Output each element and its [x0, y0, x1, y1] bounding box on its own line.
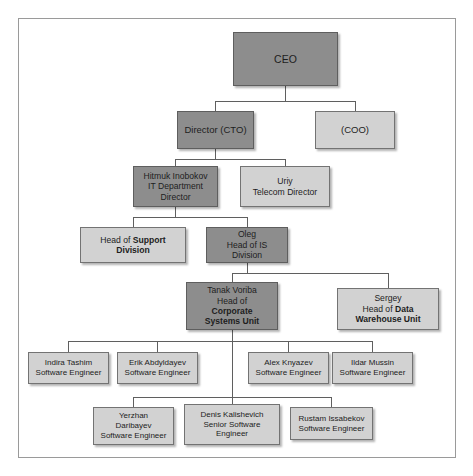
node-engineer-denis-kalishevich-text: Denis KalishevichSenior SoftwareEngineer: [187, 410, 277, 439]
node-engineer-ildar-mussin-text: Ildar MussinSoftware Engineer: [335, 358, 410, 378]
node-engineer-rustam-issabekov-text: Rustam IssabekovSoftware Engineer: [293, 414, 370, 434]
node-head-of-support-division[interactable]: Head of Support Division: [80, 227, 186, 263]
node-engineer-yerzhan-daribayev[interactable]: YerzhanDaribayevSoftware Engineer: [93, 407, 174, 445]
node-ceo-label: CEO: [236, 53, 335, 66]
node-engineer-alex-knyazev[interactable]: Alex KnyazevSoftware Engineer: [248, 352, 329, 384]
node-coo-label: (COO): [318, 124, 392, 136]
node-corporate-systems-unit[interactable]: Tanak VoribaHead ofCorporateSystems Unit: [186, 282, 278, 330]
node-it-department-director[interactable]: Hitmuk InobokovIT DepartmentDirector: [133, 166, 218, 207]
node-director-cto-label: Director (CTO): [180, 124, 251, 136]
node-engineer-alex-knyazev-text: Alex KnyazevSoftware Engineer: [251, 358, 326, 378]
node-engineer-indira-tashim-text: Indira TashimSoftware Engineer: [31, 358, 106, 378]
node-head-of-is-division-text: OlegHead of ISDivision: [209, 229, 285, 260]
node-engineer-erik-abdyldayev[interactable]: Erik AbdyldayevSoftware Engineer: [117, 352, 198, 384]
node-corporate-systems-unit-text: Tanak VoribaHead ofCorporateSystems Unit: [189, 285, 275, 327]
node-engineer-rustam-issabekov[interactable]: Rustam IssabekovSoftware Engineer: [290, 407, 373, 440]
node-engineer-indira-tashim[interactable]: Indira TashimSoftware Engineer: [28, 352, 109, 384]
node-coo[interactable]: (COO): [315, 111, 395, 149]
node-it-department-director-text: Hitmuk InobokovIT DepartmentDirector: [136, 171, 215, 202]
node-director-cto[interactable]: Director (CTO): [177, 111, 254, 149]
node-head-of-is-division[interactable]: OlegHead of ISDivision: [206, 227, 288, 263]
node-engineer-erik-abdyldayev-text: Erik AbdyldayevSoftware Engineer: [120, 358, 195, 378]
node-data-warehouse-unit[interactable]: SergeyHead of DataWarehouse Unit: [337, 288, 439, 330]
node-ceo[interactable]: CEO: [233, 32, 338, 86]
node-engineer-denis-kalishevich[interactable]: Denis KalishevichSenior SoftwareEngineer: [184, 404, 280, 445]
org-chart-canvas: CEO Director (CTO) (COO) Hitmuk Inobokov…: [0, 0, 473, 476]
node-telecom-director-text: UriyTelecom Director: [243, 176, 327, 197]
node-telecom-director[interactable]: UriyTelecom Director: [240, 166, 330, 207]
node-engineer-yerzhan-daribayev-text: YerzhanDaribayevSoftware Engineer: [96, 411, 171, 440]
node-head-of-support-division-text: Head of Support Division: [83, 235, 183, 256]
node-engineer-ildar-mussin[interactable]: Ildar MussinSoftware Engineer: [332, 352, 413, 384]
node-data-warehouse-unit-text: SergeyHead of DataWarehouse Unit: [340, 293, 436, 324]
